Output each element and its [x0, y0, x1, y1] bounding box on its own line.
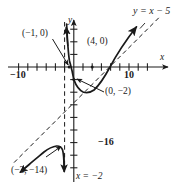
point-label-4-0: (4, 0): [87, 37, 108, 47]
point-label-minus1-0: (−1, 0): [22, 29, 48, 39]
graph-figure: x y −10 10 −16 (−1, 0) (4, 0) (0, −2) (−…: [0, 0, 193, 190]
point-minus1-0: [68, 66, 71, 69]
y-axis-label: y: [68, 16, 72, 26]
point-0-minus2: [72, 78, 75, 81]
x-tick-label-10: 10: [124, 70, 134, 80]
vertical-asymptote-label: x = −2: [76, 172, 103, 182]
x-axis: [8, 63, 168, 71]
point-label-minus3-minus14: (−3, −14): [11, 166, 47, 176]
y-tick-label-minus16: −16: [98, 137, 114, 147]
slant-asymptote-label: y = x − 5: [133, 6, 170, 16]
x-axis-label: x: [160, 53, 164, 63]
x-tick-label-minus10: −10: [10, 70, 26, 80]
curve-right-branch: [66, 24, 136, 93]
point-4-0: [91, 66, 94, 69]
y-axis: [70, 20, 77, 182]
point-label-0-minus2: (0, −2): [105, 87, 131, 97]
